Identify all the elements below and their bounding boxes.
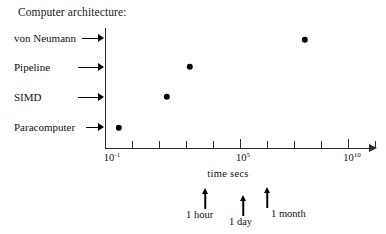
- data-point-simd: [164, 94, 170, 100]
- x-axis-major-tick: [348, 139, 349, 148]
- category-pointer-arrow-icon: [86, 122, 104, 133]
- annotation-arrow-shaft: [204, 192, 206, 209]
- x-axis-minor-tick: [375, 141, 376, 148]
- x-axis-minor-tick: [321, 141, 322, 148]
- category-pointer-arrow-icon: [82, 33, 104, 44]
- category-label-von-neumann: von Neumann: [14, 32, 76, 44]
- category-label-simd: SIMD: [14, 91, 42, 103]
- tick-label-exponent: 5: [247, 151, 251, 159]
- x-axis-line: [105, 148, 371, 149]
- tick-label-exponent: -1: [114, 151, 120, 159]
- figure-canvas: Computer architecture: von NeumannPipeli…: [0, 0, 386, 234]
- x-axis-minor-tick: [267, 141, 268, 148]
- x-axis-minor-tick: [186, 141, 187, 148]
- x-axis-title: time secs: [207, 168, 248, 179]
- x-axis-tick-label: 105: [236, 152, 250, 163]
- x-axis-major-tick: [105, 139, 106, 148]
- annotation-arrow-shaft: [266, 191, 268, 208]
- annotation-label-1-day: 1 day: [229, 216, 252, 227]
- y-axis-line: [105, 28, 106, 149]
- chart-title: Computer architecture:: [18, 6, 127, 18]
- tick-label-exponent: 10: [354, 151, 361, 159]
- x-axis-tick-label: 10-1: [104, 152, 120, 163]
- annotation-arrowhead-icon: [240, 195, 246, 201]
- x-axis-minor-tick: [159, 141, 160, 148]
- annotation-arrowhead-icon: [202, 188, 208, 194]
- category-pointer-arrow-icon: [78, 92, 104, 103]
- x-axis-minor-tick: [213, 141, 214, 148]
- tick-label-base: 10: [236, 152, 247, 163]
- annotation-label-1-month: 1 month: [271, 208, 306, 219]
- annotation-arrowhead-icon: [264, 187, 270, 193]
- category-label-paracomputer: Paracomputer: [14, 121, 75, 133]
- x-axis-minor-tick: [294, 141, 295, 148]
- data-point-pipeline: [187, 64, 193, 70]
- data-point-von-neumann: [302, 37, 308, 43]
- tick-label-base: 10: [343, 152, 354, 163]
- annotation-label-1-hour: 1 hour: [186, 209, 213, 220]
- annotation-arrow-shaft: [242, 199, 244, 216]
- x-axis-minor-tick: [132, 141, 133, 148]
- category-pointer-arrow-icon: [78, 62, 104, 73]
- tick-label-base: 10: [104, 152, 115, 163]
- data-point-paracomputer: [116, 125, 122, 131]
- category-label-pipeline: Pipeline: [14, 61, 50, 73]
- x-axis-tick-label: 1010: [343, 152, 361, 163]
- x-axis-major-tick: [240, 139, 241, 148]
